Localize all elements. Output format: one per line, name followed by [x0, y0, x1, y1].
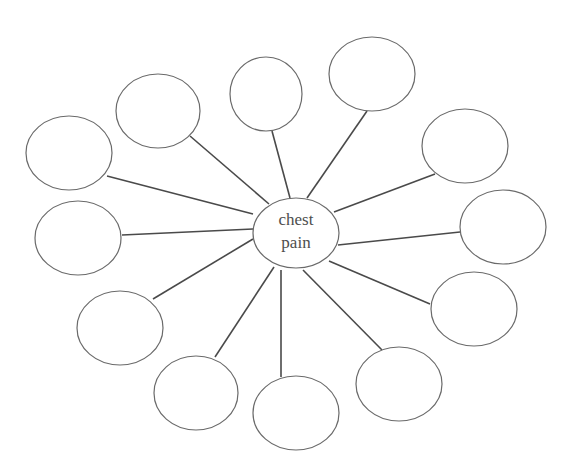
spider-diagram: chest pain: [0, 0, 575, 471]
empty-node-ellipse: [431, 272, 517, 346]
outer-node: [431, 272, 517, 346]
outer-node: [26, 116, 112, 190]
empty-node-ellipse: [422, 109, 508, 183]
outer-node: [154, 356, 238, 430]
connector-line: [334, 174, 435, 212]
center-node: chest pain: [253, 198, 339, 268]
connector-line: [190, 136, 269, 204]
empty-node-ellipse: [356, 347, 442, 421]
outer-node: [35, 201, 121, 275]
empty-node-ellipse: [116, 74, 200, 148]
center-label-line-1: chest: [279, 210, 314, 229]
connector-line: [215, 267, 274, 357]
connector-line: [303, 270, 382, 350]
outer-node: [356, 347, 442, 421]
outer-node: [77, 291, 163, 365]
empty-node-ellipse: [460, 190, 546, 264]
connector-line: [329, 261, 430, 304]
outer-node: [253, 376, 339, 450]
outer-node: [230, 57, 302, 131]
connector-line: [307, 111, 367, 198]
empty-node-ellipse: [230, 57, 302, 131]
connector-line: [107, 176, 253, 214]
empty-node-ellipse: [329, 37, 415, 111]
outer-node: [329, 37, 415, 111]
connector-line: [122, 229, 253, 235]
center-label-line-2: pain: [281, 233, 311, 252]
outer-node: [460, 190, 546, 264]
empty-node-ellipse: [77, 291, 163, 365]
connector-line: [272, 131, 290, 198]
outer-node: [422, 109, 508, 183]
empty-node-ellipse: [35, 201, 121, 275]
outer-node: [116, 74, 200, 148]
connector-line: [338, 232, 460, 245]
connector-line: [153, 239, 253, 299]
empty-node-ellipse: [26, 116, 112, 190]
empty-node-ellipse: [154, 356, 238, 430]
empty-node-ellipse: [253, 376, 339, 450]
